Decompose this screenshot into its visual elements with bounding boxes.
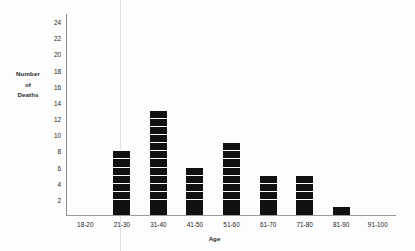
y-axis-tick-label: 14 (54, 99, 61, 106)
bar-segment (260, 183, 277, 191)
bar-segment (296, 199, 313, 207)
bar-segment (150, 110, 167, 118)
bar-segment (223, 191, 240, 199)
y-axis-tick-label: 24 (54, 19, 61, 26)
bar-segment (150, 183, 167, 191)
x-axis-tick-label: 41-50 (177, 221, 214, 228)
bar-segment (150, 191, 167, 199)
bar-segment (150, 158, 167, 166)
bar-series (67, 14, 396, 215)
bar-segment (150, 207, 167, 215)
y-axis-tick-label: 20 (54, 51, 61, 58)
bar-segment (113, 199, 130, 207)
bar-segment (113, 175, 130, 183)
x-axis-tick-label: 18-20 (67, 221, 104, 228)
bar-segment (223, 167, 240, 175)
y-axis-title-line-3: Deaths (4, 90, 52, 101)
bar[interactable] (223, 142, 240, 215)
bar-segment (150, 199, 167, 207)
bar[interactable] (260, 175, 277, 215)
y-axis-tick-label: 2 (57, 196, 61, 203)
bar-segment (296, 183, 313, 191)
bar-segment (186, 167, 203, 175)
bar-segment (260, 199, 277, 207)
bar-segment (150, 150, 167, 158)
x-axis-tick-labels: 18-2021-3031-4041-5051-6061-7071-8081-90… (67, 221, 396, 228)
y-axis-title-line-1: Number (4, 69, 52, 80)
bar[interactable] (186, 167, 203, 215)
bar-segment (223, 199, 240, 207)
bar-segment (333, 207, 350, 215)
y-axis-title: Number of Deaths (4, 69, 52, 101)
bar-segment (260, 175, 277, 183)
bar-slot[interactable] (140, 14, 177, 215)
bar-segment (296, 207, 313, 215)
bar-segment (150, 167, 167, 175)
bar-segment (186, 183, 203, 191)
bar-slot[interactable] (286, 14, 323, 215)
bar-slot[interactable] (323, 14, 360, 215)
x-axis-tick-label: 51-60 (213, 221, 250, 228)
bar-slot[interactable] (213, 14, 250, 215)
bar-segment (223, 142, 240, 150)
bar-segment (186, 191, 203, 199)
bar-slot[interactable] (67, 14, 104, 215)
bar-segment (113, 158, 130, 166)
bar-segment (113, 191, 130, 199)
x-axis-tick-label: 91-100 (360, 221, 397, 228)
bar-segment (150, 126, 167, 134)
x-axis-tick-label: 21-30 (104, 221, 141, 228)
y-axis-tick-label: 6 (57, 164, 61, 171)
bar-segment (223, 183, 240, 191)
chart-screenshot: Number of Deaths 24681012141618202224 18… (0, 0, 415, 251)
bar-segment (223, 175, 240, 183)
bar-segment (113, 150, 130, 158)
x-axis-tick-label: 61-70 (250, 221, 287, 228)
bar-segment (296, 175, 313, 183)
bar-segment (260, 191, 277, 199)
bar-segment (186, 199, 203, 207)
bar[interactable] (296, 175, 313, 215)
bar-slot[interactable] (250, 14, 287, 215)
bar-segment (186, 175, 203, 183)
bar-segment (223, 207, 240, 215)
bar-segment (186, 207, 203, 215)
bar-slot[interactable] (177, 14, 214, 215)
y-axis-tick-label: 16 (54, 83, 61, 90)
bar[interactable] (150, 110, 167, 215)
bar-segment (150, 118, 167, 126)
bar-segment (150, 175, 167, 183)
y-axis-tick-label: 22 (54, 35, 61, 42)
x-axis-title: Age (0, 235, 415, 242)
y-axis-title-line-2: of (4, 80, 52, 91)
bar-segment (223, 158, 240, 166)
bar-segment (223, 150, 240, 158)
x-axis-tick-label: 31-40 (140, 221, 177, 228)
x-axis-tick-label: 81-90 (323, 221, 360, 228)
bar-segment (296, 191, 313, 199)
bar[interactable] (113, 150, 130, 215)
y-axis-tick-label: 10 (54, 132, 61, 139)
plot-area: 24681012141618202224 (66, 14, 396, 216)
bar-segment (260, 207, 277, 215)
y-axis-tick-label: 8 (57, 148, 61, 155)
y-axis-tick-label: 18 (54, 67, 61, 74)
x-axis-line (66, 215, 396, 216)
bar[interactable] (333, 207, 350, 215)
bar-segment (113, 207, 130, 215)
bar-segment (113, 183, 130, 191)
y-axis-tick-label: 4 (57, 180, 61, 187)
bar-segment (150, 134, 167, 142)
bar-segment (113, 167, 130, 175)
y-axis-tick-label: 12 (54, 116, 61, 123)
bar-segment (150, 142, 167, 150)
x-axis-tick-label: 71-80 (286, 221, 323, 228)
bar-slot[interactable] (360, 14, 397, 215)
bar-slot[interactable] (104, 14, 141, 215)
